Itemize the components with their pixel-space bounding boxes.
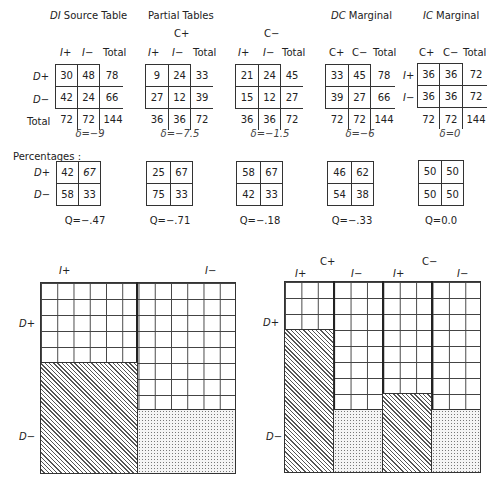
cell: 9 (146, 70, 168, 81)
cell: 50 (419, 189, 441, 200)
cell: 72 (191, 114, 213, 125)
cell: 72 (440, 114, 462, 125)
row-d-minus: D− (33, 94, 49, 105)
cell: 15 (236, 92, 258, 103)
cell: 36 (418, 69, 439, 80)
cell: 75 (147, 189, 170, 200)
cell: 144 (100, 114, 126, 125)
col-total: Total (103, 47, 126, 58)
cell: 33 (171, 189, 192, 200)
cell: 36 (169, 114, 190, 125)
col-i-plus: I+ (238, 47, 249, 58)
cell: 33 (191, 70, 213, 81)
col-total: Total (463, 47, 486, 58)
col-total: Total (193, 47, 216, 58)
cell: 54 (328, 189, 351, 200)
cell: 67 (261, 167, 282, 178)
cell: 33 (261, 189, 282, 200)
cell: 144 (463, 114, 489, 125)
cell: 78 (371, 70, 397, 81)
q-value: Q=−.71 (145, 215, 195, 226)
delta-value: δ=−7.5 (150, 128, 210, 139)
cell: 72 (349, 114, 370, 125)
figure: DI Source Table Partial Tables DC Margin… (0, 0, 495, 494)
cell: 12 (259, 92, 280, 103)
cell: 67 (171, 167, 192, 178)
diagram-col-i-plus: I+ (393, 268, 404, 279)
cell: 27 (281, 92, 303, 103)
partial-tables-title: Partial Tables (148, 10, 214, 21)
q-value: Q=−.33 (326, 215, 378, 226)
dotted-area-c-plus-i-minus (333, 409, 383, 473)
cell: 78 (100, 70, 124, 81)
diagram-row-d-plus: D+ (263, 317, 279, 328)
cell: 33 (79, 189, 100, 200)
dotted-area-i-minus (137, 409, 236, 474)
delta-value: δ=−6 (330, 128, 390, 139)
cell: 50 (442, 189, 463, 200)
col-i-plus: I+ (148, 47, 159, 58)
row-total: Total (27, 116, 50, 127)
cell: 12 (169, 92, 190, 103)
cell: 72 (418, 114, 439, 125)
c-minus-heading: C− (264, 28, 279, 39)
cell: 36 (418, 91, 439, 102)
percent-table: 58 67 42 33 (236, 161, 283, 206)
row-i-plus: I+ (403, 70, 414, 81)
diagram-group-c-minus: C− (422, 256, 437, 267)
cell: 39 (326, 92, 348, 103)
cell: 45 (281, 70, 303, 81)
cell: 42 (237, 189, 260, 200)
hatched-area-c-plus-i-plus (284, 329, 334, 473)
cell: 38 (352, 189, 373, 200)
q-value: Q=−.18 (235, 215, 285, 226)
hatched-area-c-minus-i-plus (382, 393, 432, 473)
cell: 72 (56, 114, 77, 125)
c-plus-heading: C+ (174, 28, 189, 39)
delta-value: δ=−9 (60, 128, 120, 139)
cell: 36 (236, 114, 258, 125)
cell: 72 (463, 91, 489, 102)
cell: 66 (371, 92, 397, 103)
cell: 62 (352, 167, 373, 178)
cell: 72 (463, 69, 489, 80)
cell: 36 (440, 69, 462, 80)
ic-marginal-title: IC Marginal (423, 10, 479, 21)
diagram-row-d-plus: D+ (19, 318, 35, 329)
cell: 27 (146, 92, 168, 103)
diagram-row-d-minus: D− (19, 431, 35, 442)
cell: 46 (328, 167, 351, 178)
cell: 58 (57, 189, 78, 200)
dotted-area-c-minus-i-minus (431, 409, 481, 473)
q-value: Q=0.0 (415, 215, 467, 226)
cell: 21 (236, 70, 258, 81)
col-total: Total (373, 47, 396, 58)
diagram-col-i-minus: I− (351, 268, 362, 279)
col-c-plus: C+ (329, 47, 344, 58)
col-i-minus: I− (82, 47, 93, 58)
cell: 42 (57, 167, 78, 178)
cell: 24 (78, 92, 99, 103)
cell: 36 (440, 91, 462, 102)
col-total: Total (282, 47, 305, 58)
percent-table: 50 50 50 50 (418, 160, 464, 206)
cell: 25 (147, 167, 170, 178)
col-c-minus: C− (443, 47, 458, 58)
col-c-minus: C− (352, 47, 367, 58)
cell: 30 (56, 70, 77, 81)
row-d-plus: D+ (34, 167, 50, 178)
delta-value: δ=0 (420, 128, 480, 139)
percent-table: 25 67 75 33 (146, 161, 193, 206)
diagram-col-i-minus: I− (205, 265, 216, 276)
cell: 58 (237, 167, 260, 178)
diagram-col-i-plus: I+ (59, 265, 70, 276)
row-d-minus: D− (34, 189, 50, 200)
q-value: Q=−.47 (60, 215, 110, 226)
hatched-area-i-plus (40, 362, 138, 474)
cell: 72 (326, 114, 348, 125)
col-i-minus: I− (172, 47, 183, 58)
cell: 33 (326, 70, 348, 81)
cell: 144 (371, 114, 397, 125)
cell: 72 (78, 114, 99, 125)
diagram-row-d-minus: D− (266, 431, 282, 442)
